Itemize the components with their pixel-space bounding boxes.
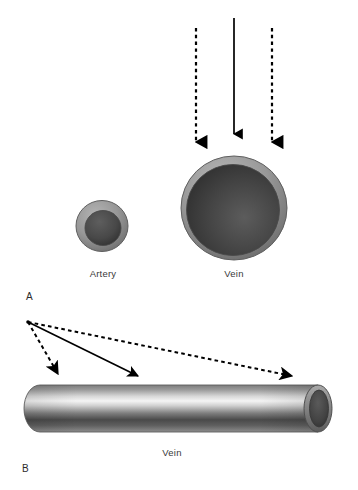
- panel-a-arrow-group: [196, 18, 272, 142]
- vein-cross-section: [181, 156, 287, 260]
- panel-a-label: A: [26, 291, 33, 302]
- arrow-mid-solid: [28, 322, 138, 376]
- vein-lumen: [187, 165, 280, 256]
- vein-artery-figure: Artery Vein A Vein: [0, 0, 358, 490]
- arrow-far-dashed: [28, 322, 292, 376]
- vein-cross-section-label: Vein: [224, 268, 243, 279]
- vein-longitudinal: [24, 385, 332, 432]
- artery-label: Artery: [90, 268, 117, 279]
- vein-cylinder-end-lumen: [310, 390, 329, 427]
- artery-cross-section: [76, 201, 128, 252]
- figure-root: Artery Vein A Vein: [0, 0, 358, 490]
- panel-b-arrow-group: [26, 320, 292, 376]
- vein-cylinder-shading: [24, 385, 318, 432]
- panel-b: Vein B: [22, 320, 332, 474]
- artery-lumen: [85, 211, 121, 246]
- arrow-origin-point: [26, 320, 30, 324]
- panel-a: Artery Vein A: [26, 18, 287, 302]
- panel-b-label: B: [22, 463, 29, 474]
- vein-longitudinal-label: Vein: [162, 447, 181, 458]
